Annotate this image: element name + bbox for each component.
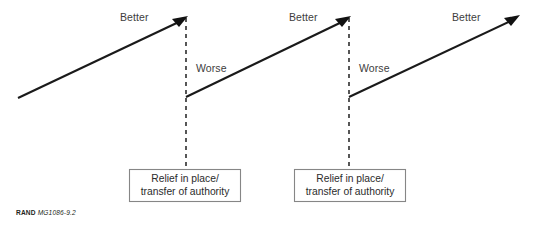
event-box-1-line-1: Relief in place/ [151,173,219,184]
event-box-2: Relief in place/ transfer of authority [295,170,406,202]
event-box-1: Relief in place/ transfer of authority [130,170,241,202]
diagram-canvas: Better Better Better Worse Worse Relief … [0,0,535,230]
figure-credit: RAND MG1086-9.2 [16,209,76,216]
trend-line-segment-3 [349,19,515,97]
trend-line-segment-1 [18,20,183,98]
worse-label-1: Worse [196,62,227,74]
sawtooth-effectiveness-diagram: Better Better Better Worse Worse Relief … [0,0,535,230]
better-label-1: Better [120,11,149,23]
event-box-2-line-2: transfer of authority [306,186,396,197]
arrow-head-3-icon [504,15,520,26]
worse-label-2: Worse [359,62,390,74]
credit-organization: RAND [16,209,36,216]
better-label-3: Better [452,11,481,23]
event-box-2-line-1: Relief in place/ [316,173,384,184]
trend-line-segment-2 [186,20,346,97]
credit-document-id: MG1086-9.2 [38,209,76,216]
better-label-2: Better [289,11,318,23]
event-box-1-line-2: transfer of authority [141,186,231,197]
